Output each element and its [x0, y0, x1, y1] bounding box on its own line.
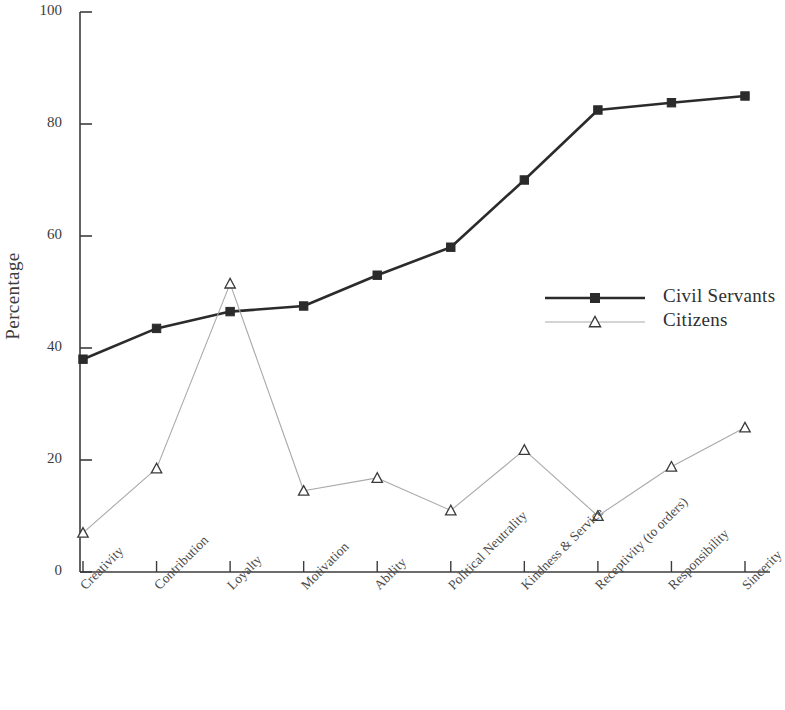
legend-marker-square — [590, 293, 600, 303]
data-point-marker[interactable] — [226, 307, 234, 315]
data-point-marker[interactable] — [299, 302, 307, 310]
legend-label-civil-servants[interactable]: Civil Servants — [663, 285, 775, 307]
data-point-marker[interactable] — [666, 462, 676, 472]
data-point-marker[interactable] — [152, 324, 160, 332]
data-point-marker[interactable] — [225, 278, 235, 288]
legend-label-citizens[interactable]: Citizens — [663, 309, 728, 331]
data-point-marker[interactable] — [446, 505, 456, 515]
data-point-marker[interactable] — [79, 355, 87, 363]
data-point-marker[interactable] — [594, 106, 602, 114]
data-point-marker[interactable] — [373, 271, 381, 279]
data-point-marker[interactable] — [519, 445, 529, 455]
series-line-citizens — [83, 284, 745, 533]
data-point-marker[interactable] — [667, 99, 675, 107]
data-point-marker[interactable] — [520, 176, 528, 184]
data-point-marker[interactable] — [372, 473, 382, 483]
series-line-civil-servants — [83, 96, 745, 359]
data-point-marker[interactable] — [741, 92, 749, 100]
data-point-marker[interactable] — [740, 422, 750, 432]
data-point-marker[interactable] — [447, 243, 455, 251]
data-point-marker[interactable] — [151, 463, 161, 473]
